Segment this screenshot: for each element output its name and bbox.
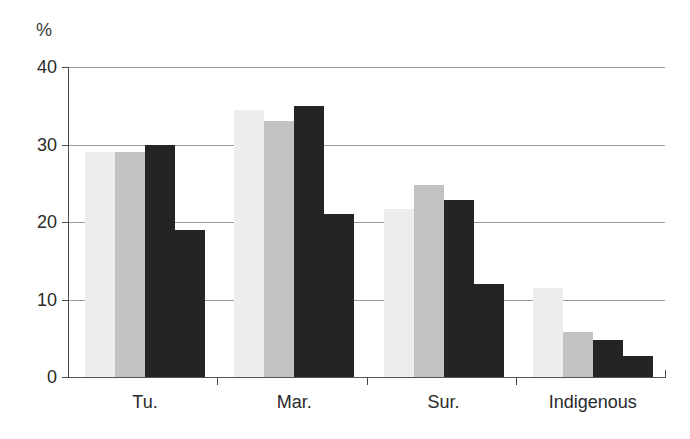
bar [384,209,414,377]
y-axis-tick-labels: 010203040 [0,0,57,439]
x-category-label: Tu. [132,392,157,413]
x-category-label: Sur. [427,392,459,413]
bar [474,284,504,377]
y-tick-label: 30 [3,134,57,155]
plot-area [68,67,665,377]
bar-chart: % 010203040 Tu.Mar.Sur.Indigenous [0,0,690,439]
bar [324,214,354,377]
x-category-label: Mar. [277,392,312,413]
bar [115,152,145,377]
y-tick-mark-30 [62,145,69,146]
x-tick-mark [516,377,517,385]
bar [85,152,115,377]
x-tick-mark [217,377,218,385]
bar [175,230,205,377]
x-tick-mark [665,370,666,378]
bar [414,185,444,377]
bar [145,145,175,378]
y-tick-mark-40 [62,67,69,68]
y-tick-mark-0 [62,377,69,378]
bar [234,110,264,377]
bar [264,121,294,377]
bar [444,200,474,377]
y-tick-label: 0 [3,367,57,388]
y-tick-label: 10 [3,289,57,310]
y-tick-label: 20 [3,212,57,233]
y-tick-mark-20 [62,222,69,223]
y-tick-mark-10 [62,300,69,301]
x-tick-mark [367,377,368,385]
y-tick-label: 40 [3,57,57,78]
bar [593,340,623,377]
bar [563,332,593,377]
x-category-label: Indigenous [549,392,637,413]
gridline-40 [68,67,665,68]
bar [294,106,324,377]
bar [533,288,563,377]
bar [623,356,653,377]
